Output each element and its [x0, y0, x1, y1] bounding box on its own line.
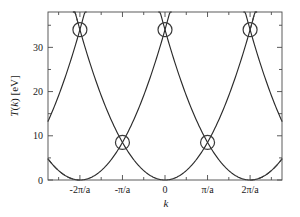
- x-axis-title: k: [164, 197, 170, 209]
- band-structure-figure: -2π/a-π/a0π/a2π/a 0102030 T(k) [eV] k: [0, 0, 300, 217]
- x-tick-labels: -2π/a-π/a0π/a2π/a: [70, 184, 260, 195]
- x-tick-label-4: 2π/a: [241, 184, 259, 195]
- chart-svg: -2π/a-π/a0π/a2π/a 0102030 T(k) [eV] k: [0, 0, 300, 217]
- y-tick-label-0: 0: [38, 175, 43, 186]
- y-tick-labels: 0102030: [33, 42, 43, 186]
- y-tick-label-1: 10: [33, 130, 43, 141]
- x-tick-label-1: -π/a: [115, 184, 131, 195]
- x-tick-label-2: 0: [163, 184, 168, 195]
- y-tick-label-2: 20: [33, 86, 43, 97]
- y-axis-title-unit: [eV]: [8, 75, 20, 98]
- y-tick-label-3: 30: [33, 42, 43, 53]
- x-tick-label-0: -2π/a: [70, 184, 91, 195]
- y-axis-title: T(k) [eV]: [8, 75, 21, 116]
- x-tick-label-3: π/a: [201, 184, 214, 195]
